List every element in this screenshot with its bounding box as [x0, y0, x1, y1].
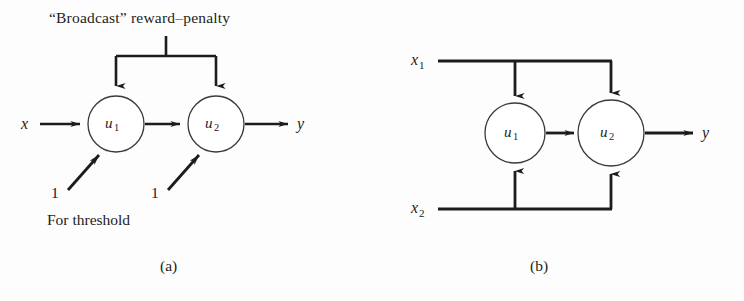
node-label-subscript: 2 [214, 122, 219, 133]
node-label-text: u [600, 124, 608, 140]
panel-a-bias-label-1-right: 1 [151, 185, 159, 201]
panel-b-caption: (b) [530, 258, 548, 274]
node-label-text: u [105, 115, 113, 131]
figure-graphics [0, 0, 744, 301]
panel-b-input-label-x2: x2 [411, 200, 424, 216]
panel-a-input-label-x: x [21, 116, 28, 132]
node-label-subscript: 1 [513, 131, 518, 142]
panel-a-note-for-threshold: For threshold [47, 212, 130, 228]
panel-a-node-label-u1: u1 [105, 116, 118, 131]
input-label-subscript: 1 [419, 59, 425, 71]
panel-a-bias-label-1-left: 1 [51, 185, 59, 201]
node-label-text: u [205, 115, 213, 131]
panel-b-node-label-u2: u2 [600, 125, 613, 140]
node-label-subscript: 2 [609, 131, 614, 142]
panel-a-output-label-y: y [297, 116, 304, 132]
node-label-subscript: 1 [114, 122, 119, 133]
panel-b-graphics [438, 61, 693, 209]
input-label-text: x [411, 199, 418, 216]
panel-b-node-label-u1: u1 [504, 125, 517, 140]
node-label-text: u [504, 124, 512, 140]
panel-b-input-label-x1: x1 [411, 52, 424, 68]
panel-a-title: “Broadcast” reward–penalty [49, 10, 230, 26]
bias-arrow-u1 [68, 155, 99, 190]
figure-canvas: “Broadcast” reward–penalty u1 u2 x y 1 1… [0, 0, 744, 301]
panel-a-node-label-u2: u2 [205, 116, 218, 131]
bias-arrow-u2 [168, 155, 199, 190]
panel-a-caption: (a) [160, 258, 177, 274]
panel-b-output-label-y: y [702, 125, 709, 141]
panel-a-graphics [40, 36, 288, 190]
input-label-text: x [411, 51, 418, 68]
input-label-subscript: 2 [419, 207, 425, 219]
